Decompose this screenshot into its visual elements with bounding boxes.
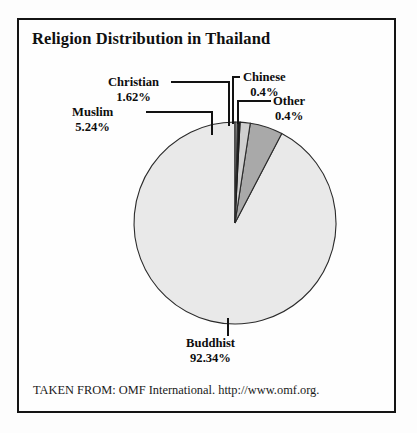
slice-label-christian-name: Christian (108, 75, 159, 89)
slice-label-buddhist-value: 92.34% (186, 351, 235, 366)
slice-label-chinese-name: Chinese (243, 70, 286, 84)
slice-label-christian: Christian 1.62% (108, 75, 159, 106)
slice-label-other-name: Other (273, 94, 305, 108)
leader-line-other (238, 101, 271, 124)
slice-label-buddhist: Buddhist 92.34% (186, 336, 235, 367)
source-attribution: TAKEN FROM: OMF International. http://ww… (33, 383, 319, 398)
slice-label-muslim-name: Muslim (72, 105, 113, 119)
slice-label-other: Other 0.4% (273, 94, 305, 125)
slice-label-other-value: 0.4% (273, 109, 305, 124)
slice-label-buddhist-name: Buddhist (186, 336, 235, 350)
slice-label-christian-value: 1.62% (108, 90, 159, 105)
leader-line-christian (171, 82, 229, 126)
slice-label-muslim-value: 5.24% (72, 120, 113, 135)
chart-page: Religion Distribution in Thailand Christ… (0, 0, 417, 433)
slice-label-muslim: Muslim 5.24% (72, 105, 113, 136)
pie-chart-figure (0, 0, 417, 433)
